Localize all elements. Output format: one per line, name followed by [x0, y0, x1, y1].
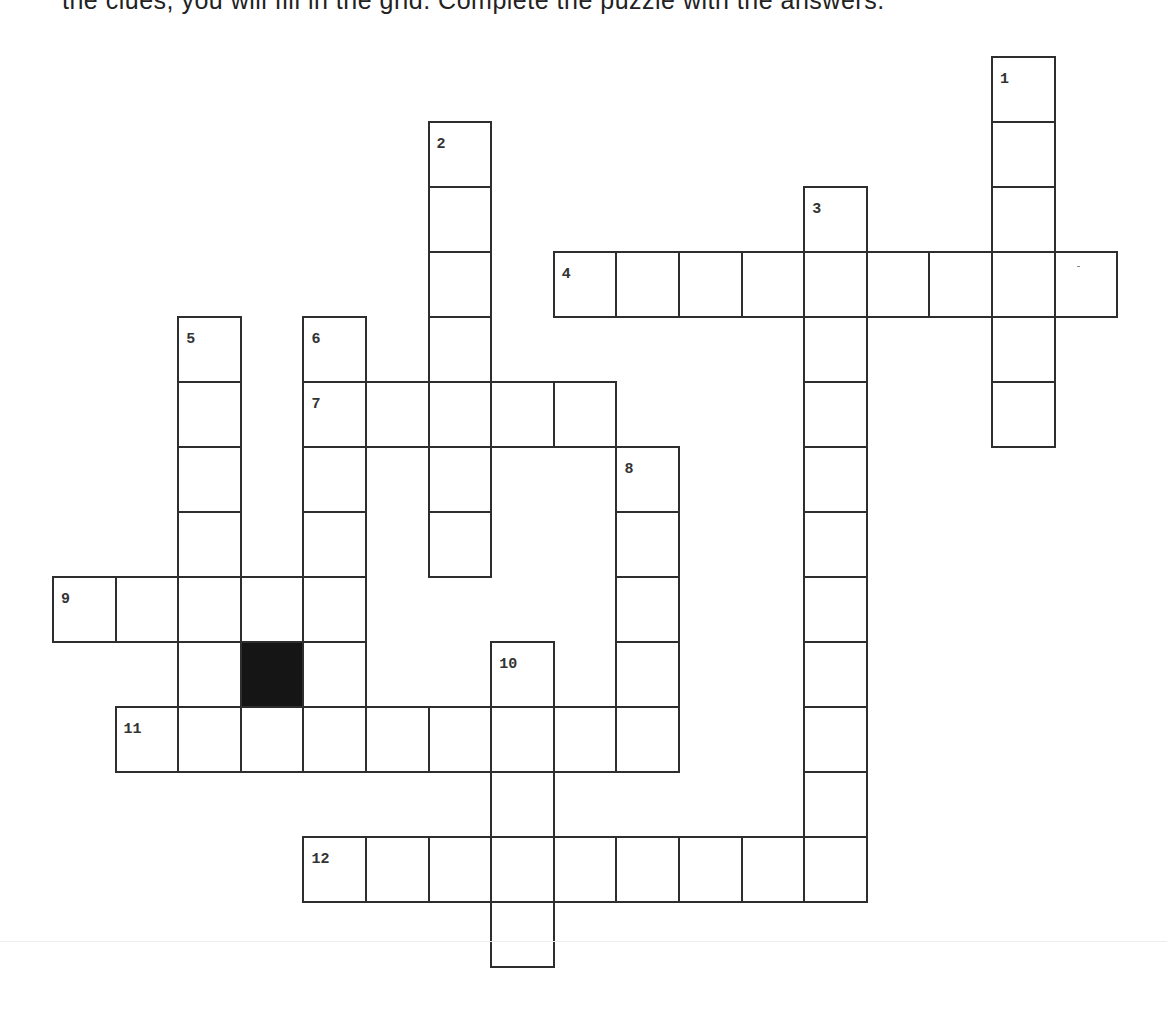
crossword-cell[interactable] [615, 706, 680, 773]
crossword-cell[interactable] [866, 251, 931, 318]
clue-number-8: 8 [624, 462, 633, 477]
crossword-cell[interactable] [490, 706, 555, 773]
crossword-cell[interactable] [302, 511, 367, 578]
crossword-cell[interactable] [803, 511, 868, 578]
crossword-cell[interactable] [615, 836, 680, 903]
crossword-cell-7[interactable]: 7 [302, 381, 367, 448]
crossword-cell[interactable] [177, 706, 242, 773]
crossword-cell-5[interactable]: 5 [177, 316, 242, 383]
crossword-cell[interactable] [803, 446, 868, 513]
crossword-cell[interactable] [991, 186, 1056, 253]
clue-number-1: 1 [1000, 72, 1009, 87]
crossword-cell[interactable] [678, 836, 743, 903]
clue-number-9: 9 [61, 592, 70, 607]
crossword-cell[interactable] [428, 251, 493, 318]
crossword-cell[interactable] [302, 641, 367, 708]
crossword-cell[interactable] [803, 771, 868, 838]
crossword-cell[interactable] [553, 381, 618, 448]
crossword-cell[interactable] [490, 381, 555, 448]
crossword-cell[interactable] [741, 251, 806, 318]
crossword-cell-3[interactable]: 3 [803, 186, 868, 253]
crossword-cell[interactable] [553, 836, 618, 903]
crossword-cell[interactable] [803, 316, 868, 383]
crossword-cell[interactable] [803, 576, 868, 643]
crossword-cell[interactable] [177, 511, 242, 578]
clue-number-10: 10 [499, 657, 517, 672]
crossword-cell[interactable] [928, 251, 993, 318]
crossword-cell[interactable] [365, 706, 430, 773]
crossword-cell[interactable] [615, 511, 680, 578]
crossword-cell-4[interactable]: 4 [553, 251, 618, 318]
crossword-cell[interactable] [803, 381, 868, 448]
crossword-cell[interactable] [365, 381, 430, 448]
clue-number-7: 7 [311, 397, 320, 412]
crossword-cell[interactable] [428, 706, 493, 773]
crossword-cell[interactable] [803, 836, 868, 903]
crossword-cell[interactable] [553, 706, 618, 773]
clue-number-2: 2 [437, 137, 446, 152]
crossword-cell[interactable] [302, 706, 367, 773]
crossword-cell[interactable] [490, 901, 555, 968]
crossword-cell[interactable] [615, 576, 680, 643]
crossword-cell[interactable] [615, 641, 680, 708]
crossword-cell-8[interactable]: 8 [615, 446, 680, 513]
crossword-cell[interactable] [741, 836, 806, 903]
clue-number-3: 3 [812, 202, 821, 217]
crossword-cell[interactable] [678, 251, 743, 318]
clue-number-6: 6 [311, 332, 320, 347]
crossword-cell[interactable] [1054, 251, 1119, 318]
crossword-cell-1[interactable]: 1 [991, 56, 1056, 123]
crossword-cell[interactable] [428, 381, 493, 448]
crossword-cell[interactable] [615, 251, 680, 318]
crossword-cell[interactable] [177, 576, 242, 643]
crossword-cell[interactable] [803, 641, 868, 708]
crossword-cell[interactable] [177, 641, 242, 708]
crossword-cell[interactable] [428, 511, 493, 578]
crossword-cell[interactable] [177, 381, 242, 448]
crossword-cell[interactable] [991, 316, 1056, 383]
crossword-cell[interactable] [240, 706, 305, 773]
crossword-cell[interactable] [428, 446, 493, 513]
crossword-cell[interactable] [428, 836, 493, 903]
clue-number-5: 5 [186, 332, 195, 347]
crossword-grid: 123456789101112 [0, 0, 1167, 1015]
crossword-cell[interactable] [302, 446, 367, 513]
scan-speck [1077, 266, 1080, 267]
crossword-cell-9[interactable]: 9 [52, 576, 117, 643]
crossword-cell[interactable] [991, 251, 1056, 318]
crossword-cell[interactable] [302, 576, 367, 643]
crossword-cell[interactable] [991, 381, 1056, 448]
crossword-cell[interactable] [803, 706, 868, 773]
clue-number-11: 11 [124, 722, 142, 737]
blocked-cell [240, 641, 305, 708]
scan-artifact-line [0, 941, 1167, 942]
crossword-cell[interactable] [115, 576, 180, 643]
crossword-cell[interactable] [991, 121, 1056, 188]
clue-number-4: 4 [562, 267, 571, 282]
clue-number-12: 12 [311, 852, 329, 867]
crossword-cell[interactable] [490, 836, 555, 903]
crossword-cell-12[interactable]: 12 [302, 836, 367, 903]
crossword-cell-11[interactable]: 11 [115, 706, 180, 773]
crossword-cell-6[interactable]: 6 [302, 316, 367, 383]
crossword-cell[interactable] [240, 576, 305, 643]
crossword-cell-10[interactable]: 10 [490, 641, 555, 708]
crossword-cell-2[interactable]: 2 [428, 121, 493, 188]
crossword-cell[interactable] [803, 251, 868, 318]
crossword-cell[interactable] [428, 316, 493, 383]
crossword-cell[interactable] [177, 446, 242, 513]
crossword-cell[interactable] [490, 771, 555, 838]
crossword-cell[interactable] [428, 186, 493, 253]
crossword-cell[interactable] [365, 836, 430, 903]
